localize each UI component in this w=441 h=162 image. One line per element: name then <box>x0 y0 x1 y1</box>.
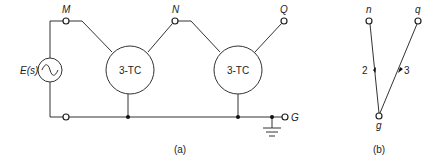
caption-a: (a) <box>174 144 186 155</box>
graph-b: n q g 2 3 (b) <box>362 4 421 155</box>
label-n: N <box>172 4 180 15</box>
tc-block-2-label: 3-TC <box>227 65 249 76</box>
sine-wave-icon <box>42 65 58 76</box>
label-vertex-q: q <box>415 4 421 15</box>
edge-label-2: 2 <box>362 65 368 76</box>
ground-symbol-icon <box>263 128 281 136</box>
label-q: Q <box>280 4 288 15</box>
circuit-diagram: E(s) 3-TC 3-TC M N Q G (a) n q g 2 <box>0 0 441 162</box>
wire-tc1-to-n <box>148 24 172 52</box>
junction-dot <box>270 115 274 119</box>
wire-tc2-to-q <box>255 24 281 52</box>
terminal-q <box>281 18 287 24</box>
edge-q-g-line <box>380 24 417 113</box>
source-label: E(s) <box>20 65 38 76</box>
junction-dot <box>126 115 130 119</box>
edge-label-3: 3 <box>404 65 410 76</box>
label-m: M <box>62 4 71 15</box>
label-vertex-n: n <box>366 4 372 15</box>
wire-m-to-tc1 <box>69 21 112 52</box>
label-g: G <box>291 112 299 123</box>
junction-dot <box>236 115 240 119</box>
vertex-g <box>376 113 382 119</box>
circuit-a: E(s) 3-TC 3-TC M N Q G (a) <box>20 4 299 155</box>
vertex-n <box>366 18 372 24</box>
terminal-g <box>282 114 288 120</box>
terminal-bottom-left <box>63 114 69 120</box>
svg-text:E(s): E(s) <box>20 65 38 76</box>
wire-n-to-tc2 <box>178 21 220 52</box>
terminal-m <box>63 18 69 24</box>
terminal-n <box>172 18 178 24</box>
vertex-q <box>415 18 421 24</box>
label-vertex-g: g <box>376 120 382 131</box>
tc-block-1-label: 3-TC <box>119 65 141 76</box>
caption-b: (b) <box>373 144 385 155</box>
